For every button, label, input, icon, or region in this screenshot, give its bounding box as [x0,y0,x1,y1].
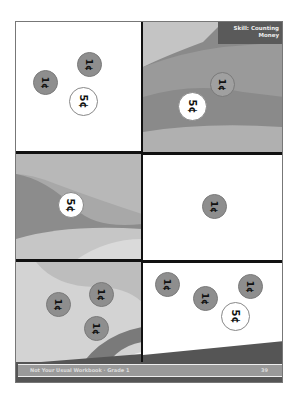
vertical-divider [141,22,143,383]
footer-bar: Not Your Usual Workbook · Grade 1 39 [18,364,282,377]
horizontal-divider [142,260,283,263]
penny-coin: 1¢ [193,286,218,311]
panel-4: 1¢ [143,155,283,261]
footer-title: Not Your Usual Workbook · Grade 1 [30,365,129,376]
penny-coin: 1¢ [84,316,109,341]
footer: Not Your Usual Workbook · Grade 1 39 [16,362,283,383]
skill-label: Skill: Counting Money [218,22,283,44]
page-number: 39 [261,365,268,376]
penny-coin: 1¢ [77,52,102,77]
panel-1: 1¢ 1¢ 5¢ [16,22,142,152]
nickel-coin: 5¢ [58,192,84,218]
penny-coin: 1¢ [155,272,180,297]
penny-coin: 1¢ [202,194,227,219]
nickel-coin: 5¢ [69,87,98,116]
penny-coin: 1¢ [33,70,58,95]
nickel-coin: 5¢ [178,92,207,121]
penny-coin: 1¢ [89,282,114,307]
penny-coin: 1¢ [210,72,235,97]
panel-3: 5¢ [16,154,142,260]
horizontal-divider [16,259,142,262]
penny-coin: 1¢ [238,274,263,299]
worksheet-page: 1¢ 1¢ 5¢ Skill: Counting Money 1¢ 5¢ 5¢ … [15,21,283,383]
penny-coin: 1¢ [46,292,71,317]
horizontal-divider [142,152,283,155]
horizontal-divider [16,151,142,154]
panel-2: Skill: Counting Money 1¢ 5¢ [143,22,283,152]
nickel-coin: 5¢ [221,302,250,331]
